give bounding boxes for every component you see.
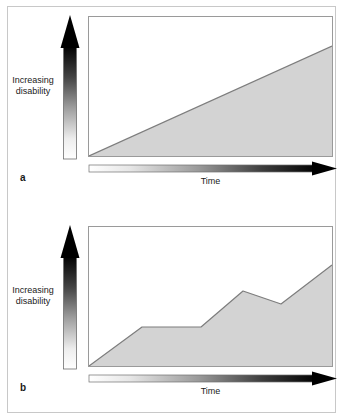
panel-a-y-axis-arrow xyxy=(60,14,80,160)
panel-b-y-label-line1: Increasing xyxy=(6,285,60,296)
panel-b-letter: b xyxy=(20,382,26,393)
panel-b-area-chart xyxy=(89,227,332,366)
panel-b-y-axis-label: Increasing disability xyxy=(6,285,60,307)
panel-a-area-chart xyxy=(89,17,332,156)
panel-b-x-axis-label: Time xyxy=(88,386,333,396)
panel-a-x-axis-arrow xyxy=(88,161,338,176)
panel-b-plot-area xyxy=(88,226,333,367)
panel-a: Increasing disability Time a xyxy=(0,0,343,210)
panel-a-y-label-line1: Increasing xyxy=(6,75,60,86)
panel-a-letter: a xyxy=(20,172,26,183)
panel-b: Increasing disability Time b xyxy=(0,210,343,420)
figure-container: Increasing disability Time a xyxy=(0,0,343,420)
panel-b-y-label-line2: disability xyxy=(6,296,60,307)
panel-b-x-axis-arrow xyxy=(88,371,338,386)
panel-a-x-axis-label: Time xyxy=(88,176,333,186)
panel-a-plot-area xyxy=(88,16,333,157)
panel-b-y-axis-arrow xyxy=(60,224,80,370)
panel-a-y-axis-label: Increasing disability xyxy=(6,75,60,97)
panel-a-y-label-line2: disability xyxy=(6,86,60,97)
panel-b-area-fill xyxy=(89,265,332,366)
